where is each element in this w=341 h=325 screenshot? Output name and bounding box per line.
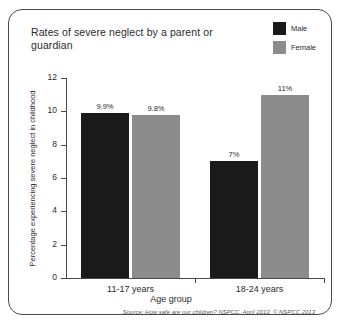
y-axis-tick-label: 6 bbox=[52, 172, 57, 182]
x-axis-tick bbox=[195, 278, 196, 283]
chart-legend: Male Female bbox=[273, 22, 333, 60]
bar-value-label: 9.8% bbox=[147, 104, 164, 113]
y-axis-tick: 8 bbox=[61, 145, 66, 146]
y-axis-tick: 12 bbox=[61, 78, 66, 79]
y-axis-tick: 2 bbox=[61, 245, 66, 246]
y-axis-tick: 10 bbox=[61, 111, 66, 112]
bar-value-label: 7% bbox=[229, 150, 240, 159]
legend-item-male: Male bbox=[273, 22, 333, 35]
x-axis-category-label: 11-17 years bbox=[107, 284, 154, 294]
y-axis-tick: 4 bbox=[61, 211, 66, 212]
chart-title: Rates of severe neglect by a parent or g… bbox=[31, 26, 256, 52]
source-note: Source: How safe are our children? NSPCC… bbox=[123, 309, 315, 315]
y-axis-tick-label: 0 bbox=[52, 272, 57, 282]
x-axis-category-label: 18-24 years bbox=[236, 284, 284, 294]
y-axis-tick-label: 2 bbox=[52, 239, 57, 249]
y-axis-tick-label: 12 bbox=[48, 72, 57, 82]
x-axis-label: Age group bbox=[9, 294, 333, 304]
y-axis-tick: 0 bbox=[61, 278, 66, 279]
bar-female-1: 11% bbox=[261, 95, 309, 278]
legend-swatch-male bbox=[273, 22, 286, 35]
plot-area: 0246810129.9%9.8%11-17 years7%11%18-24 y… bbox=[66, 78, 324, 278]
y-axis-tick-label: 8 bbox=[52, 139, 57, 149]
y-axis-tick: 6 bbox=[61, 178, 66, 179]
legend-swatch-female bbox=[273, 41, 286, 54]
chart-card: Rates of severe neglect by a parent or g… bbox=[8, 9, 332, 315]
y-axis-label-text: Percentage experiencing severe neglect i… bbox=[29, 90, 38, 266]
bar-female-0: 9.8% bbox=[132, 115, 180, 278]
bar-male-0: 9.9% bbox=[81, 113, 129, 278]
bar-value-label: 9.9% bbox=[96, 102, 113, 111]
x-axis-tick bbox=[324, 278, 325, 283]
y-axis-line bbox=[66, 78, 67, 278]
legend-label-female: Female bbox=[291, 43, 316, 52]
y-axis-tick-label: 10 bbox=[48, 105, 57, 115]
legend-label-male: Male bbox=[291, 24, 307, 33]
y-axis-tick-label: 4 bbox=[52, 205, 57, 215]
bar-value-label: 11% bbox=[278, 84, 292, 93]
legend-item-female: Female bbox=[273, 41, 333, 54]
y-axis-label: Percentage experiencing severe neglect i… bbox=[27, 78, 39, 278]
bar-male-1: 7% bbox=[210, 161, 258, 278]
